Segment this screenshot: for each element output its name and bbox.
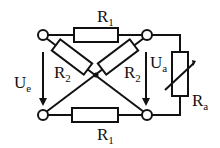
resistor-r1-bottom <box>72 108 118 122</box>
terminal-top-left <box>38 30 48 40</box>
label-r2-right: R2 <box>124 63 141 84</box>
wire-ra-bottom <box>152 96 180 115</box>
circuit-diagram: R1 R1 R2 R2 Ra Ue Ua <box>0 0 220 148</box>
junction-dot <box>94 73 99 78</box>
label-ua: Ua <box>150 53 167 74</box>
terminal-bottom-right <box>142 110 152 120</box>
resistor-r1-top <box>74 28 118 42</box>
label-r1-bottom: R1 <box>97 125 114 146</box>
label-ue: Ue <box>14 73 31 94</box>
label-r2-left: R2 <box>54 63 71 84</box>
label-r1-top: R1 <box>97 7 114 28</box>
arrowhead-ue-icon <box>39 98 47 106</box>
terminal-bottom-left <box>38 110 48 120</box>
terminal-top-right <box>142 30 152 40</box>
wire-ra-top <box>152 35 180 52</box>
resistor-ra <box>172 52 188 96</box>
label-ra: Ra <box>192 91 208 112</box>
arrowhead-ua-icon <box>142 98 150 106</box>
